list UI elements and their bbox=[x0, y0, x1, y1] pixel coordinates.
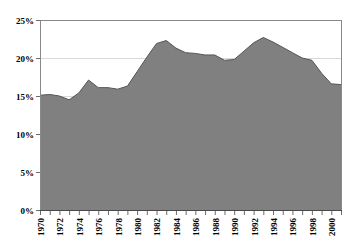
x-tick-label: 1976 bbox=[94, 218, 104, 237]
y-axis-ticks: 0%5%10%15%20%25% bbox=[16, 16, 40, 216]
chart-canvas: 0%5%10%15%20%25%197019721974197619781980… bbox=[0, 0, 349, 249]
x-tick-label: 1990 bbox=[230, 218, 240, 237]
x-tick-label: 1980 bbox=[133, 218, 143, 237]
x-tick-label: 1974 bbox=[75, 218, 85, 237]
x-tick-label: 1986 bbox=[191, 218, 201, 237]
x-tick-label: 1994 bbox=[269, 218, 279, 237]
y-tick-label: 10% bbox=[16, 130, 34, 140]
x-tick-label: 1998 bbox=[308, 218, 318, 237]
x-tick-label: 1988 bbox=[211, 218, 221, 237]
x-tick-label: 1978 bbox=[114, 218, 124, 237]
y-tick-label: 15% bbox=[16, 92, 34, 102]
x-tick-label: 1992 bbox=[250, 218, 260, 237]
x-tick-label: 1970 bbox=[36, 218, 46, 237]
y-tick-label: 20% bbox=[16, 54, 34, 64]
y-tick-label: 0% bbox=[21, 206, 35, 216]
y-tick-label: 5% bbox=[21, 168, 35, 178]
x-tick-label: 1982 bbox=[152, 218, 162, 237]
x-axis-ticks: 1970197219741976197819801982198419861988… bbox=[36, 211, 342, 236]
x-tick-label: 1972 bbox=[55, 218, 65, 237]
x-tick-label: 1984 bbox=[172, 218, 182, 237]
y-tick-label: 25% bbox=[16, 16, 34, 26]
area-chart: 0%5%10%15%20%25%197019721974197619781980… bbox=[0, 0, 349, 249]
x-tick-label: 1996 bbox=[288, 218, 298, 237]
x-tick-label: 2000 bbox=[327, 218, 337, 237]
